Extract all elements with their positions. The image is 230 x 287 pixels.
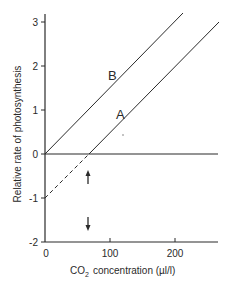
line-a	[89, 22, 219, 154]
y-tick-label: 1	[32, 105, 38, 116]
x-tick-label: 0	[43, 248, 49, 259]
y-tick-labels: 3 2 1 0 -1 -2	[29, 17, 38, 248]
y-tick-label: -1	[29, 193, 38, 204]
arrow-down-icon	[86, 217, 91, 231]
y-tick-label: -2	[29, 237, 38, 248]
photosynthesis-chart: 3 2 1 0 -1 -2 0 100 200 B A Relative rat…	[0, 0, 230, 287]
curve-label-b: B	[108, 68, 117, 83]
curve-label-a: A	[116, 107, 125, 122]
y-tick-label: 3	[32, 17, 38, 28]
y-axis-label: Relative rate of photosynthesis	[12, 66, 23, 203]
x-axis-label: CO2concentration (µl/l)	[70, 265, 175, 278]
y-tick-label: 0	[32, 149, 38, 160]
y-tick-label: 2	[32, 61, 38, 72]
x-tick-label: 100	[102, 248, 119, 259]
x-tick-label: 200	[167, 248, 184, 259]
line-a-extrapolated	[45, 154, 89, 198]
x-tick-labels: 0 100 200	[43, 248, 184, 259]
line-b	[45, 13, 183, 154]
arrow-up-icon	[86, 170, 91, 184]
